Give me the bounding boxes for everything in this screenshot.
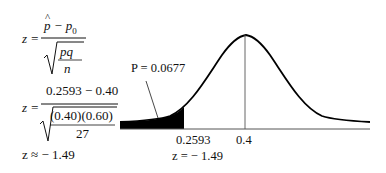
formula-lines	[40, 38, 118, 141]
sqrt-general	[44, 42, 84, 74]
annotation-leader	[146, 81, 158, 118]
shaded-tail-region	[120, 107, 184, 129]
diagram-graphics	[0, 0, 386, 173]
sqrt-substituted	[40, 107, 117, 141]
